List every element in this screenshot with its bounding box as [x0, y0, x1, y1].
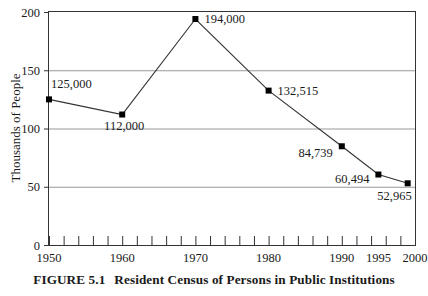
y-tick-label: 150	[21, 64, 40, 78]
data-point-label: 194,000	[204, 12, 245, 26]
data-point-label: 112,000	[104, 119, 144, 133]
data-point-label: 60,494	[335, 172, 370, 186]
figure-container: 050100150200 195019601970198019901995200…	[0, 0, 428, 296]
data-point-marker	[266, 88, 272, 94]
data-point-marker	[119, 112, 125, 118]
y-tick-label: 100	[21, 122, 40, 136]
y-axis-title: Thousands of People	[8, 73, 23, 182]
x-axis-tick-labels: 1950196019701980199019952000	[37, 251, 428, 265]
data-point-marker	[405, 180, 411, 186]
data-point-label: 125,000	[51, 77, 92, 91]
x-tick-label: 1995	[366, 251, 391, 265]
x-tick-label: 1990	[329, 251, 354, 265]
figure-caption: FIGURE 5.1Resident Census of Persons in …	[0, 272, 428, 288]
data-point-marker	[192, 16, 198, 22]
line-chart: 050100150200 195019601970198019901995200…	[0, 0, 428, 268]
y-tick-label: 50	[28, 180, 41, 194]
figure-caption-number: FIGURE 5.1	[33, 272, 105, 287]
x-tick-label: 1950	[37, 251, 62, 265]
x-tick-label: 1980	[256, 251, 281, 265]
x-tick-label: 2000	[403, 251, 428, 265]
y-axis-tick-labels: 050100150200	[21, 6, 40, 253]
data-point-label: 52,965	[377, 189, 411, 203]
data-point-marker	[46, 96, 52, 102]
y-tick-label: 200	[21, 6, 40, 20]
x-tick-label: 1970	[183, 251, 208, 265]
data-point-label: 84,739	[298, 146, 332, 160]
chart-canvas: 050100150200 195019601970198019901995200…	[0, 0, 428, 268]
data-point-label: 132,515	[278, 84, 319, 98]
data-point-marker	[339, 143, 345, 149]
data-point-marker	[375, 172, 381, 178]
x-tick-label: 1960	[110, 251, 135, 265]
figure-caption-title: Resident Census of Persons in Public Ins…	[114, 272, 394, 287]
